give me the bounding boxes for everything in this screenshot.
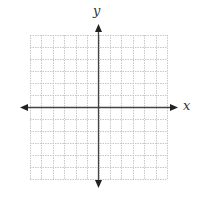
arrow-left-icon — [20, 104, 28, 111]
arrow-right-icon — [170, 104, 178, 111]
arrow-down-icon — [95, 180, 102, 188]
arrow-up-icon — [95, 24, 102, 32]
coordinate-plane — [0, 0, 198, 197]
x-axis-label: x — [183, 99, 190, 112]
axes — [20, 24, 178, 188]
y-axis-label: y — [93, 4, 100, 17]
